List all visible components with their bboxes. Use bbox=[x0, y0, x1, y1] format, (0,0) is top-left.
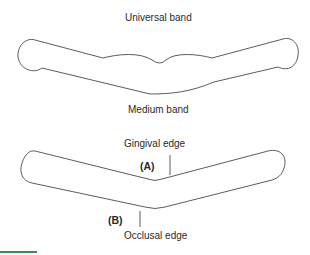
marker-a: (A) bbox=[140, 160, 155, 172]
medium-band-title: Medium band bbox=[128, 104, 189, 115]
universal-band-outline bbox=[18, 38, 298, 94]
occlusal-edge-label: Occlusal edge bbox=[124, 230, 187, 241]
gingival-edge-label: Gingival edge bbox=[124, 138, 185, 149]
marker-b: (B) bbox=[108, 214, 123, 226]
accent-bar bbox=[0, 251, 37, 253]
band-diagrams bbox=[0, 0, 310, 255]
